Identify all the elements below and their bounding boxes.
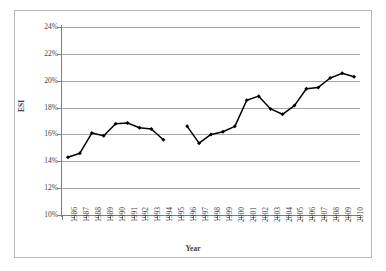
y-tick-mark-18 [57, 108, 61, 109]
y-tick-label-20: 20% [44, 77, 58, 85]
y-tick-mark-20 [57, 81, 61, 82]
y-tick-mark-22 [57, 54, 61, 55]
gridline-16 [62, 134, 360, 135]
y-tick-mark-12 [57, 188, 61, 189]
y-axis-title: ESI [18, 100, 26, 112]
x-tick-label-1987: 1987 [83, 207, 91, 222]
x-tick-label-1997: 1997 [202, 207, 210, 222]
y-tick-mark-14 [57, 161, 61, 162]
gridline-12 [62, 188, 360, 189]
x-tick-label-1998: 1998 [214, 207, 222, 222]
y-tick-label-10: 10% [44, 211, 58, 219]
plot-background [62, 27, 360, 215]
x-tick-label-2010: 2010 [357, 207, 365, 222]
y-tick-label-22: 22% [44, 50, 58, 58]
x-tick-label-1988: 1988 [95, 207, 103, 222]
x-tick-label-1989: 1989 [107, 207, 115, 222]
x-tick-label-1995: 1995 [178, 207, 186, 222]
y-tick-mark-24 [57, 27, 61, 28]
y-tick-mark-16 [57, 134, 61, 135]
plot-area [62, 27, 360, 215]
x-tick-label-2002: 2002 [262, 207, 270, 222]
x-tick-label-2001: 2001 [250, 207, 258, 222]
gridline-18 [62, 108, 360, 109]
x-tick-label-2005: 2005 [297, 207, 305, 222]
y-tick-label-24: 24% [44, 23, 58, 31]
x-tick-label-1991: 1991 [131, 207, 139, 222]
x-axis-title: Year [0, 245, 386, 253]
y-tick-label-16: 16% [44, 130, 58, 138]
x-tick-label-1994: 1994 [166, 207, 174, 222]
y-tick-mark-10 [57, 215, 61, 216]
x-tick-label-1986: 1986 [71, 207, 79, 222]
x-tick-label-1999: 1999 [226, 207, 234, 222]
x-tick-label-1993: 1993 [154, 207, 162, 222]
chart-figure: 24%22%20%18%16%14%12%10% 198619871988198… [0, 0, 386, 271]
y-tick-label-18: 18% [44, 104, 58, 112]
x-tick-label-1990: 1990 [119, 207, 127, 222]
gridline-24 [62, 27, 360, 28]
x-tick-label-2008: 2008 [333, 207, 341, 222]
gridline-14 [62, 161, 360, 162]
x-tick-label-1996: 1996 [190, 207, 198, 222]
y-tick-label-14: 14% [44, 157, 58, 165]
y-axis-tick-labels: 24%22%20%18%16%14%12%10% [20, 0, 58, 271]
x-tick-label-2003: 2003 [274, 207, 282, 222]
gridline-20 [62, 81, 360, 82]
gridline-22 [62, 54, 360, 55]
x-tick-label-2009: 2009 [345, 207, 353, 222]
x-tick-label-2007: 2007 [321, 207, 329, 222]
y-axis-line [61, 25, 62, 217]
x-tick-label-2006: 2006 [309, 207, 317, 222]
x-tick-label-1992: 1992 [142, 207, 150, 222]
x-tick-label-2000: 2000 [238, 207, 246, 222]
x-tick-mark-0 [62, 216, 63, 220]
x-tick-label-2004: 2004 [286, 207, 294, 222]
y-tick-label-12: 12% [44, 184, 58, 192]
